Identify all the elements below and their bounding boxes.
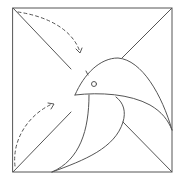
diagonal-top-left [13,8,71,69]
diagonal-bottom-right [123,122,172,172]
diagonal-top-right [122,8,172,58]
bird-body-left [52,95,89,172]
bird-wing [75,94,172,130]
origami-diagram [0,0,182,188]
bird-eye [92,82,97,87]
fold-arrow-bottom [15,104,52,166]
diagonal-bottom-left [13,112,71,172]
